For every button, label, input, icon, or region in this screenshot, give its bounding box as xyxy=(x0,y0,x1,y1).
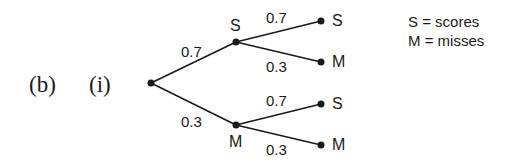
subpart-label: (i) xyxy=(89,73,111,96)
prob-S-S: 0.7 xyxy=(266,10,287,25)
prob-root-M: 0.3 xyxy=(181,114,202,129)
prob-root-S: 0.7 xyxy=(181,44,202,59)
leaf-label-SS: S xyxy=(332,13,343,29)
legend-misses: M = misses xyxy=(408,31,484,50)
prob-M-S: 0.7 xyxy=(266,93,287,108)
legend-scores: S = scores xyxy=(408,12,484,31)
part-label: (b) xyxy=(29,73,56,96)
leaf-label-SM: M xyxy=(332,54,345,70)
label-node-M: M xyxy=(229,134,242,150)
leaf-label-MM: M xyxy=(332,137,345,153)
leaf-label-MS: S xyxy=(332,96,343,112)
prob-M-M: 0.3 xyxy=(266,142,287,157)
legend-key: S = scores M = misses xyxy=(408,12,484,50)
leaf-MS xyxy=(318,101,325,108)
prob-S-M: 0.3 xyxy=(266,59,287,74)
node-M xyxy=(233,122,240,129)
label-node-S: S xyxy=(230,18,241,34)
leaf-SM xyxy=(318,59,325,66)
node-S xyxy=(233,39,240,46)
root-node xyxy=(148,80,155,87)
leaf-MM xyxy=(318,142,325,149)
leaf-SS xyxy=(318,18,325,25)
